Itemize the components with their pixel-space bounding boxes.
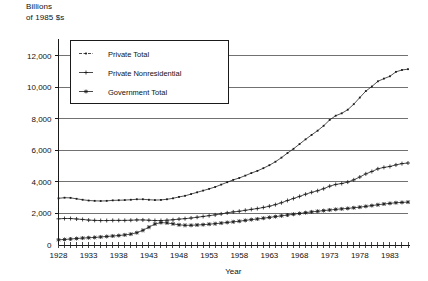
x-tick-label-1928: 1928 (50, 251, 68, 260)
y-tick-label-8000: 8,000 (31, 115, 52, 124)
legend-label-1: Private Nonresidential (108, 69, 182, 78)
y-tick-label-12000: 12,000 (27, 52, 52, 61)
y-tick-label-2000: 2,000 (31, 209, 52, 218)
series-government-total (57, 200, 411, 242)
x-tick-label-1958: 1958 (230, 251, 248, 260)
x-tick-label-1953: 1953 (200, 251, 218, 260)
x-tick-label-1943: 1943 (140, 251, 158, 260)
y-tick-label-10000: 10,000 (27, 83, 52, 92)
x-tick-label-1983: 1983 (381, 251, 399, 260)
x-tick-label-1963: 1963 (261, 251, 279, 260)
x-tick-label-1968: 1968 (291, 251, 309, 260)
x-tick-label-1973: 1973 (321, 251, 339, 260)
x-tick-label-1978: 1978 (351, 251, 369, 260)
x-tick-label-1938: 1938 (110, 251, 128, 260)
x-tick-label-1933: 1933 (80, 251, 98, 260)
y-tick-label-4000: 4,000 (31, 178, 52, 187)
x-tick-label-1948: 1948 (170, 251, 188, 260)
y-tick-label-6000: 6,000 (31, 146, 52, 155)
x-axis-title: Year (225, 267, 242, 276)
y-tick-label-0: 0 (47, 241, 52, 250)
legend-label-0: Private Total (108, 50, 149, 59)
chart-figure: Billions of 1985 $s 02,0004,0006,0008,00… (0, 0, 428, 281)
legend-label-2: Government Total (108, 88, 167, 97)
legend: Private TotalPrivate NonresidentialGover… (70, 41, 228, 104)
chart-canvas: 02,0004,0006,0008,00010,00012,0001928193… (0, 0, 428, 281)
